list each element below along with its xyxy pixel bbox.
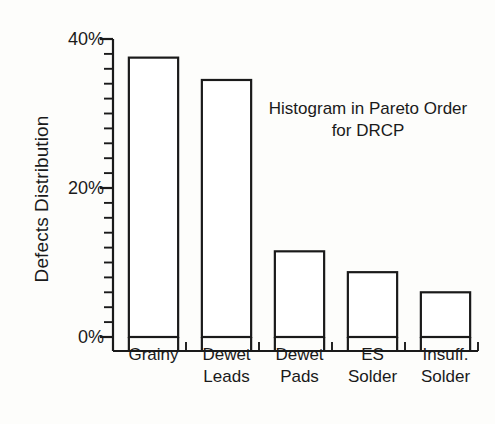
bar-dewet-leads bbox=[202, 80, 251, 337]
chart-annotation: Histogram in Pareto Order for DRCP bbox=[268, 98, 468, 143]
x-tick-label-line: Solder bbox=[391, 366, 495, 388]
bar-insuff-solder bbox=[421, 292, 470, 337]
bar-grainy bbox=[129, 58, 178, 337]
bar-es-solder bbox=[348, 272, 397, 337]
x-tick-label-line: Insuff. bbox=[391, 344, 495, 366]
annotation-line-1: Histogram in Pareto bbox=[269, 99, 419, 118]
pareto-histogram-chart: Defects Distribution 40% 20% 0% Histogra… bbox=[0, 0, 495, 424]
bar-dewet-pads bbox=[275, 251, 324, 337]
x-tick-label-insuff-solder: Insuff.Solder bbox=[391, 344, 495, 388]
